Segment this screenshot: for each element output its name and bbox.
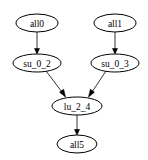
edge-lu_2_4-all5 <box>75 115 80 135</box>
node-label: all1 <box>108 19 122 29</box>
node-label: su_0_3 <box>101 59 129 69</box>
node-su_0_2[interactable]: su_0_2 <box>13 54 61 72</box>
edge-su_0_2-lu_2_4 <box>46 71 66 97</box>
edges <box>35 32 118 135</box>
node-label: all5 <box>70 140 84 150</box>
edge-all0-su_0_2 <box>35 32 40 54</box>
arrowhead-icon <box>75 130 80 136</box>
arrowhead-icon <box>35 49 40 55</box>
graph-canvas: all0 all1 su_0_2 su_0_3 lu_2_4 all5 <box>0 0 148 160</box>
node-all1[interactable]: all1 <box>94 14 136 32</box>
edge-su_0_3-lu_2_4 <box>89 71 107 97</box>
node-su_0_3[interactable]: su_0_3 <box>91 54 139 72</box>
arrowhead-icon <box>113 49 118 55</box>
node-label: all0 <box>30 19 44 29</box>
node-lu_2_4[interactable]: lu_2_4 <box>52 97 102 115</box>
node-label: lu_2_4 <box>64 102 91 112</box>
node-label: su_0_2 <box>23 59 51 69</box>
node-all0[interactable]: all0 <box>16 14 58 32</box>
edge-all1-su_0_3 <box>113 32 118 54</box>
node-all5[interactable]: all5 <box>57 135 97 153</box>
